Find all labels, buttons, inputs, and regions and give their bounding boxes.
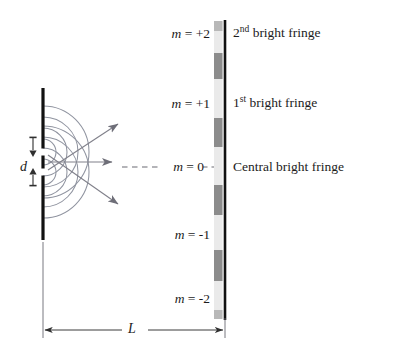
- ray-upper: [48, 124, 118, 170]
- order-label-m-minus-1: m = -1: [154, 228, 210, 242]
- fringe-label-first: 1st bright fringe: [233, 96, 317, 110]
- rays: [48, 124, 118, 204]
- order-label-m-minus-2: m = -2: [154, 292, 210, 306]
- order-label-m-plus-2: m = +2: [154, 27, 210, 41]
- double-slit-diagram: m = +2 2nd bright fringe m = +1 1st brig…: [0, 0, 396, 362]
- order-label-m-zero: m = 0: [154, 160, 204, 174]
- screen-distance-label: L: [128, 322, 136, 336]
- order-label-m-plus-1: m = +1: [154, 97, 210, 111]
- fringe-band-plus-2: [214, 53, 223, 79]
- fringe-band-zero: [214, 185, 223, 215]
- fringe-label-central: Central bright fringe: [233, 160, 344, 174]
- fringe-band-plus-1: [214, 118, 223, 147]
- diagram-canvas: [0, 0, 396, 362]
- screen: [214, 20, 225, 320]
- slit-separation-label: d: [20, 160, 27, 174]
- fringe-label-second: 2nd bright fringe: [233, 26, 320, 40]
- fringe-band-bottom-edge: [214, 310, 223, 319]
- fringe-band-minus-1: [214, 250, 223, 281]
- slit-separation-dimension: [29, 137, 36, 185]
- fringe-band-top-edge: [214, 21, 223, 31]
